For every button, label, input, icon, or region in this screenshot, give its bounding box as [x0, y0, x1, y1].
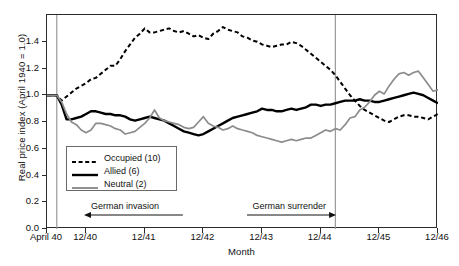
- plot-area: [46, 14, 437, 228]
- x-tick-label: April 40: [30, 231, 62, 242]
- legend-swatch-occupied: [72, 153, 98, 163]
- legend-item: Occupied (10): [72, 151, 171, 164]
- legend-label-neutral: Neutral (2): [104, 179, 147, 189]
- x-tick-label: 12/42: [191, 231, 215, 242]
- y-tick-label: 0.4: [0, 169, 39, 180]
- legend-swatch-neutral: [72, 179, 98, 189]
- figure: Real price index (April 1940 = 1.0) 0.00…: [0, 0, 459, 266]
- series-line-allied: [47, 93, 438, 136]
- y-tick-label: 0.8: [0, 115, 39, 126]
- legend-item: Allied (6): [72, 164, 171, 177]
- x-tick-label: 12/41: [132, 231, 156, 242]
- x-tick-label: 12/43: [249, 231, 273, 242]
- y-tick-label: 1.2: [0, 62, 39, 73]
- legend-item: Neutral (2): [72, 177, 171, 190]
- legend-label-allied: Allied (6): [104, 166, 140, 176]
- y-tick-label: 0.2: [0, 195, 39, 206]
- y-tick-label: 1.4: [0, 35, 39, 46]
- series-line-neutral: [47, 71, 438, 142]
- x-tick-label: 12/46: [425, 231, 449, 242]
- x-tick-label: 12/45: [366, 231, 390, 242]
- series-line-occupied: [47, 27, 438, 122]
- x-tick-label: 12/44: [308, 231, 332, 242]
- annotation-arrow: [244, 210, 337, 220]
- x-axis-label: Month: [46, 246, 437, 257]
- y-tick-label: 1.0: [0, 88, 39, 99]
- legend-label-occupied: Occupied (10): [104, 153, 161, 163]
- legend-swatch-allied: [72, 166, 98, 176]
- legend: Occupied (10) Allied (6) Neutral (2): [66, 146, 177, 191]
- x-tick-label: 12/40: [73, 231, 97, 242]
- series-canvas: [47, 15, 438, 229]
- y-tick-label: 0.6: [0, 142, 39, 153]
- annotation-arrow: [83, 210, 186, 220]
